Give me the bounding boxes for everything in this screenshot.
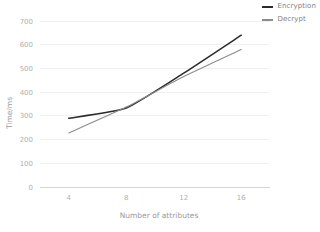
y-axis-title: Time/ms — [5, 97, 14, 130]
y-tick-label: 300 — [20, 112, 33, 120]
x-tick-label: 12 — [179, 194, 188, 202]
series-line-encryption — [69, 35, 242, 118]
y-tick-label: 500 — [20, 65, 33, 73]
legend-item-encryption[interactable]: Encryption — [262, 3, 316, 10]
legend-label-encryption: Encryption — [277, 3, 316, 10]
chart-container: Encryption Decrypt 010020030040050060070… — [0, 0, 320, 232]
y-tick-label: 0 — [29, 184, 33, 192]
data-series-group — [69, 35, 242, 133]
legend-swatch-decrypt — [262, 19, 273, 21]
x-tick-label: 16 — [237, 194, 246, 202]
legend-swatch-encryption — [262, 6, 273, 8]
x-tick-label: 4 — [67, 194, 72, 202]
y-tick-label: 600 — [20, 41, 33, 49]
gridlines-group — [40, 21, 270, 187]
x-tick-label: 8 — [124, 194, 128, 202]
chart-legend: Encryption Decrypt — [262, 3, 316, 23]
x-axis-title: Number of attributes — [120, 211, 199, 220]
x-axis-tick-labels: 481216 — [67, 194, 247, 202]
legend-item-decrypt[interactable]: Decrypt — [262, 16, 316, 23]
legend-label-decrypt: Decrypt — [277, 16, 305, 23]
y-tick-label: 100 — [20, 160, 33, 168]
y-tick-label: 400 — [20, 89, 33, 97]
line-chart-plot: 0100200300400500600700 481216 Time/ms Nu… — [0, 0, 320, 232]
y-axis-tick-labels: 0100200300400500600700 — [20, 18, 33, 192]
y-tick-label: 700 — [20, 18, 33, 26]
y-tick-label: 200 — [20, 136, 33, 144]
